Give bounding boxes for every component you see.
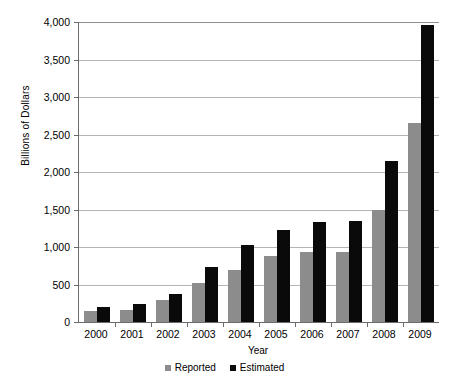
x-tick-label-2000: 2000 [78,328,114,340]
plot-area [78,22,439,323]
bar-estimated-2009 [421,25,434,322]
x-tick-mark [295,322,296,327]
bar-estimated-2003 [205,267,218,322]
x-tick-mark [187,322,188,327]
bar-group [367,22,403,322]
x-tick-mark [259,322,260,327]
bar-reported-2002 [156,300,169,322]
y-tick-label: 1,500 [10,204,70,216]
chart-legend: ReportedEstimated [0,362,449,373]
bar-reported-2009 [408,123,421,322]
bar-reported-2008 [372,210,385,322]
bar-group [295,22,331,322]
bar-estimated-2007 [349,221,362,322]
x-tick-label-2005: 2005 [258,328,294,340]
bar-reported-2005 [264,256,277,322]
x-tick-mark [367,322,368,327]
bar-reported-2004 [228,270,241,323]
y-tick-label: 3,000 [10,91,70,103]
x-tick-label-2001: 2001 [114,328,150,340]
chart-figure: Billions of Dollars 05001,0001,5002,0002… [0,0,449,383]
bar-estimated-2004 [241,245,254,322]
legend-entry-reported: Reported [165,362,216,373]
bar-group [115,22,151,322]
x-tick-mark [331,322,332,327]
legend-swatch-reported [165,365,171,371]
bar-estimated-2000 [97,307,110,322]
legend-entry-estimated: Estimated [230,362,284,373]
x-tick-mark [403,322,404,327]
x-tick-mark [151,322,152,327]
legend-swatch-estimated [230,365,236,371]
y-tick-label: 1,000 [10,241,70,253]
bar-estimated-2008 [385,161,398,322]
bar-reported-2006 [300,252,313,323]
bar-group [259,22,295,322]
bar-reported-2003 [192,283,205,322]
x-tick-label-2009: 2009 [402,328,438,340]
bar-group [223,22,259,322]
y-tick-label: 0 [10,316,70,328]
y-tick-label: 2,000 [10,166,70,178]
legend-label-estimated: Estimated [240,362,284,373]
x-axis-title: Year [78,345,438,356]
y-tick-label: 4,000 [10,16,70,28]
bar-reported-2007 [336,252,349,323]
bar-reported-2001 [120,310,133,322]
y-tick-label: 2,500 [10,129,70,141]
bar-group [151,22,187,322]
x-tick-label-2006: 2006 [294,328,330,340]
bar-estimated-2006 [313,222,326,322]
bar-group [403,22,439,322]
legend-label-reported: Reported [175,362,216,373]
x-tick-mark [223,322,224,327]
bar-group [331,22,367,322]
y-tick-label: 500 [10,279,70,291]
y-tick-mark [74,322,79,323]
x-tick-label-2002: 2002 [150,328,186,340]
bar-estimated-2002 [169,294,182,322]
bar-group [187,22,223,322]
x-tick-label-2004: 2004 [222,328,258,340]
bar-group [79,22,115,322]
y-tick-label: 3,500 [10,54,70,66]
bar-reported-2000 [84,311,97,322]
x-tick-label-2003: 2003 [186,328,222,340]
bar-series-container [79,22,439,322]
bar-estimated-2001 [133,304,146,322]
x-axis-tick-labels: 2000200120022003200420052006200720082009 [78,328,438,340]
x-tick-label-2008: 2008 [366,328,402,340]
bar-estimated-2005 [277,230,290,322]
x-tick-mark [115,322,116,327]
x-tick-label-2007: 2007 [330,328,366,340]
